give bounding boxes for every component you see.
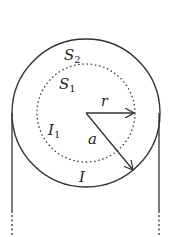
diagram-canvas: S2 S1 r a I1 I bbox=[0, 0, 172, 237]
label-i1: I1 bbox=[47, 121, 60, 140]
label-s2: S2 bbox=[64, 46, 81, 65]
label-r: r bbox=[101, 93, 109, 109]
label-a: a bbox=[88, 130, 97, 148]
label-i: I bbox=[78, 168, 86, 186]
label-s1: S1 bbox=[59, 75, 76, 94]
conductor-diagram: S2 S1 r a I1 I bbox=[0, 0, 172, 237]
